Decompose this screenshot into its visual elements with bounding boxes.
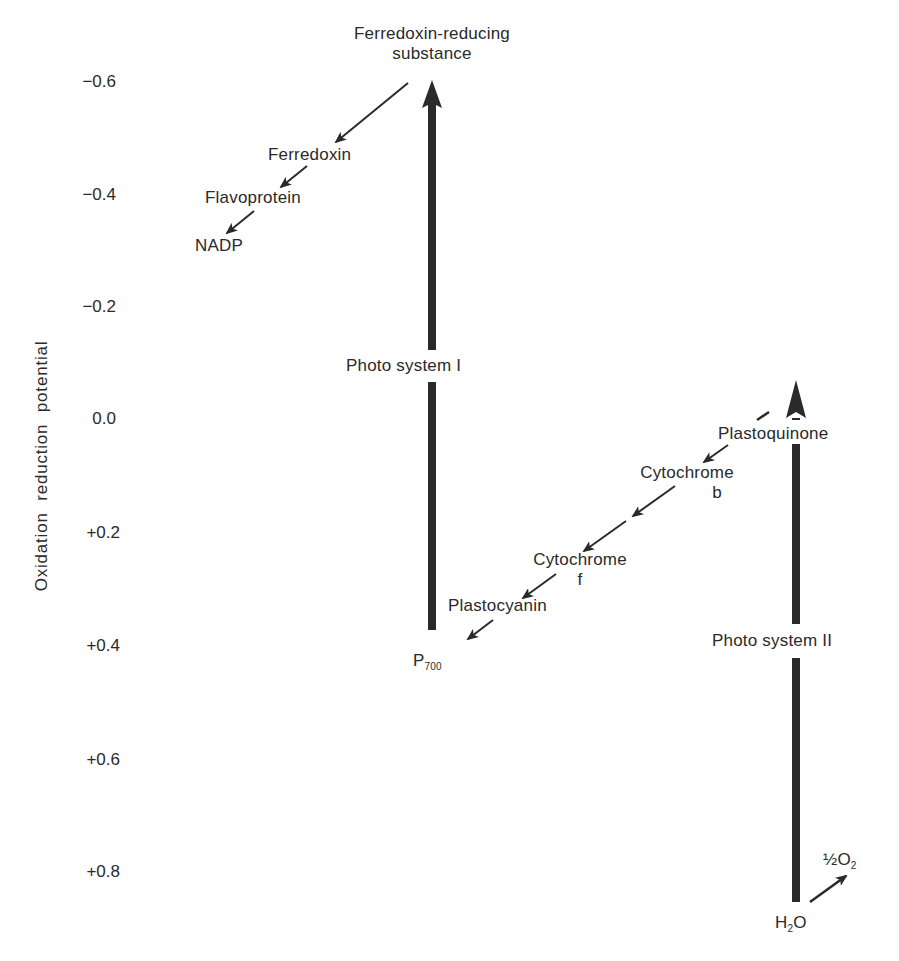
y-tick: 0.0	[46, 409, 116, 429]
water-o: O	[793, 913, 806, 932]
p700-subscript: 700	[425, 661, 442, 672]
cytochrome-b-letter: b	[626, 483, 748, 503]
arrow-flavoprotein-to-nadp	[227, 211, 254, 233]
y-tick: +0.4	[50, 636, 120, 656]
arrow-frs-to-ferredoxin	[336, 83, 408, 142]
arrow-h2o-to-oxygen	[810, 876, 846, 902]
flavoprotein-label: Flavoprotein	[205, 188, 301, 208]
cytochrome-b-name: Cytochrome	[626, 463, 748, 483]
y-tick: −0.4	[46, 185, 116, 205]
arrow-plastoquinone-to-cytochrome-b	[704, 445, 728, 462]
frs-line-2: substance	[322, 44, 542, 64]
water-label: H2O	[775, 913, 807, 939]
cytochrome-f-name: Cytochrome	[518, 550, 642, 570]
y-axis-title: Oxidation reduction potential	[32, 341, 52, 592]
ferredoxin-label: Ferredoxin	[268, 145, 351, 165]
cytochrome-f-letter: f	[518, 570, 642, 590]
dash-psii-to-plastoquinone	[757, 412, 769, 420]
y-tick: +0.6	[50, 750, 120, 770]
nadp-label: NADP	[195, 236, 243, 256]
cytochrome-b-label: Cytochrome b	[626, 463, 748, 503]
oxygen-text: ½O	[823, 850, 851, 869]
y-tick: +0.2	[50, 523, 120, 543]
oxygen-subscript: 2	[851, 860, 857, 871]
photosystem-1-label: Photo system I	[344, 356, 463, 376]
oxygen-label: ½O2	[823, 850, 857, 876]
p700-label: P700	[413, 651, 442, 677]
y-tick: −0.2	[46, 297, 116, 317]
arrow-cytochrome-b-segment-2	[584, 521, 626, 551]
z-scheme-diagram: Oxidation reduction potential −0.6 −0.4 …	[0, 0, 899, 961]
cytochrome-f-label: Cytochrome f	[518, 550, 642, 590]
photosystem-1-arrow	[422, 80, 442, 630]
water-h: H	[775, 913, 787, 932]
arrow-plastocyanin-to-p700	[468, 620, 493, 639]
plastoquinone-label: Plastoquinone	[716, 424, 830, 444]
photosystem-2-label: Photo system II	[710, 631, 834, 651]
frs-line-1: Ferredoxin-reducing	[322, 24, 542, 44]
plastocyanin-label: Plastocyanin	[448, 596, 547, 616]
diagram-arrows	[0, 0, 899, 961]
y-tick: −0.6	[46, 72, 116, 92]
ferredoxin-reducing-substance-label: Ferredoxin-reducing substance	[322, 24, 542, 64]
arrow-ferredoxin-to-flavoprotein	[281, 166, 307, 187]
y-tick: +0.8	[50, 862, 120, 882]
p700-p: P	[413, 651, 425, 670]
